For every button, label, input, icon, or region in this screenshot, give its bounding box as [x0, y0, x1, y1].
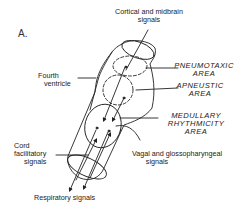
panel-label: A.	[18, 28, 27, 39]
apneustic-area-label: APNEUSTIC AREA	[168, 82, 232, 98]
vagal-glossopharyngeal-signals-label: Vagal and glossopharyngeal signals	[118, 150, 236, 166]
pneumotaxic-area-label: PNEUMOTAXIC AREA	[172, 62, 236, 78]
fourth-ventricle-groove	[90, 52, 112, 110]
cord-facilitatory-signals-label: Cord facilitatory signals	[14, 142, 46, 166]
fourth-ventricle-label: Fourth ventricle	[38, 72, 71, 88]
cortical-signals-label: Cortical and midbrain signals	[104, 8, 194, 24]
respiratory-center-diagram: A. Cortical and midbrain signals Fourth …	[0, 0, 247, 211]
medullary-rhythmicity-area-label: MEDULLARY RHYTHMICITY AREA	[156, 112, 236, 136]
respiratory-signals-label: Respiratory signals	[34, 194, 95, 202]
pneumotaxic-area-outline	[113, 56, 147, 76]
brainstem-drawing	[0, 0, 247, 211]
apneustic-area-outline	[103, 75, 133, 105]
